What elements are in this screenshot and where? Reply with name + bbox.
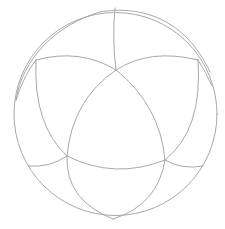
edge-left-inner-to-right-inner <box>67 156 165 169</box>
edge-top-inner-to-left-inner <box>67 70 116 156</box>
outer-offset-arc <box>16 10 210 100</box>
diagram-canvas <box>0 0 225 229</box>
edge-upper-left-outer-to-top-inner <box>36 56 116 70</box>
edge-upper-right-outer-to-right-inner <box>165 60 199 160</box>
edge-top-rim-to-top-inner <box>114 8 116 70</box>
edge-upper-right-outer-to-top-inner <box>116 56 198 70</box>
edge-top-inner-to-right-inner <box>116 70 165 160</box>
outer-sphere-circle <box>14 13 217 216</box>
spherical-tiling-diagram <box>0 0 225 229</box>
edge-right-inner-to-right-rim <box>165 160 203 167</box>
edge-upper-left-outer-to-left-inner <box>36 60 67 156</box>
edge-left-inner-to-left-rim <box>28 156 67 166</box>
edge-upper-right-outer-to-rim <box>198 60 212 86</box>
